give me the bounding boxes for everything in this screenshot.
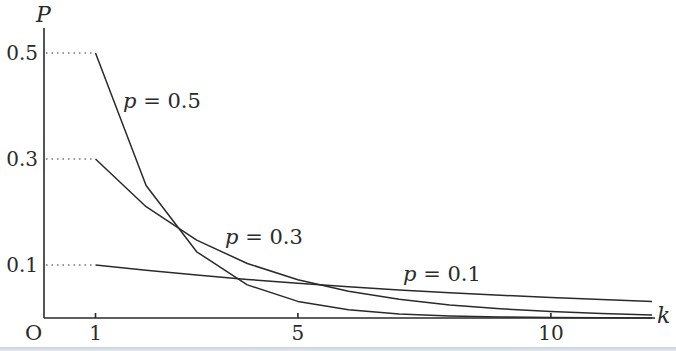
curve-label: p = 0.1 [403, 262, 481, 286]
curve-label: p = 0.3 [225, 225, 303, 249]
origin-label: O [25, 321, 42, 345]
curve-label: p = 0.5 [123, 89, 201, 113]
x-tick-label: 1 [89, 321, 102, 345]
x-axis-label: k [657, 303, 670, 328]
y-ticks: 0.10.30.5 [6, 41, 93, 277]
y-axis-label: P [35, 2, 52, 27]
y-tick-label: 0.3 [6, 147, 38, 171]
axes: P k O [25, 2, 670, 345]
y-tick-label: 0.1 [6, 253, 38, 277]
x-tick-label: 10 [538, 321, 563, 345]
y-tick-label: 0.5 [6, 41, 38, 65]
geometric-distribution-chart: P k O 1510 0.10.30.5 p = 0.5p = 0.3p = 0… [0, 0, 676, 351]
x-tick-label: 5 [292, 321, 305, 345]
bottom-border [0, 347, 676, 351]
curve-03 [96, 159, 653, 315]
curve-labels: p = 0.5p = 0.3p = 0.1 [123, 89, 481, 286]
